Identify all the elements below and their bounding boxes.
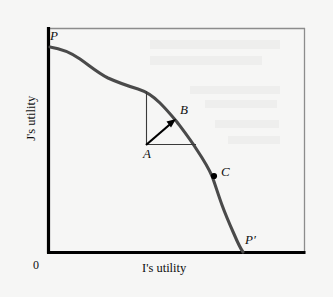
utility-possibility-frontier-figure: P P′ A B C 0 I's utility J's utility bbox=[0, 0, 333, 297]
arrow-a-to-b bbox=[146, 119, 176, 145]
page-bleed-texture bbox=[150, 40, 280, 144]
figure-canvas bbox=[0, 0, 333, 297]
y-axis-label: J's utility bbox=[25, 81, 38, 155]
point-p-prime-label: P′ bbox=[245, 233, 256, 246]
point-a-label: A bbox=[143, 147, 151, 160]
x-axis-label: I's utility bbox=[142, 262, 186, 275]
point-p-label: P bbox=[50, 29, 58, 42]
point-c-marker bbox=[211, 173, 217, 179]
point-c-label: C bbox=[221, 165, 230, 178]
origin-label: 0 bbox=[33, 259, 39, 271]
point-b-label: B bbox=[180, 103, 188, 116]
